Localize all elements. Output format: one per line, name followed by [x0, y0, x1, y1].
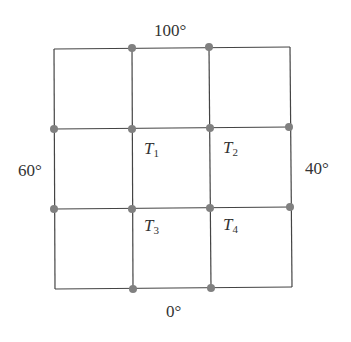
node-left-2 — [50, 205, 58, 213]
grid-line-top — [54, 47, 290, 49]
node-right-1 — [285, 123, 293, 131]
grid-line-h2 — [55, 207, 291, 209]
grid-line-v2 — [209, 47, 211, 288]
grid-line-v1 — [132, 48, 133, 289]
node-label-t4: T4 — [223, 216, 238, 235]
node-t2 — [206, 124, 214, 132]
grid-line-bottom — [55, 287, 292, 289]
grid-line-left — [54, 49, 55, 289]
node-right-2 — [286, 203, 294, 211]
grid-line-h1 — [54, 127, 290, 129]
node-top-1 — [128, 44, 136, 52]
grid-line-right — [290, 47, 292, 287]
node-t3 — [128, 205, 136, 213]
node-bottom-1 — [129, 285, 137, 293]
grid-diagram — [0, 0, 351, 342]
node-label-t1: T1 — [144, 140, 159, 159]
node-t4 — [206, 204, 214, 212]
boundary-label-left: 60° — [18, 162, 42, 179]
node-t1 — [128, 125, 136, 133]
node-bottom-2 — [207, 284, 215, 292]
node-label-t2: T2 — [223, 139, 238, 158]
boundary-label-right: 40° — [305, 160, 329, 177]
boundary-label-bottom: 0° — [166, 303, 181, 320]
boundary-label-top: 100° — [154, 22, 186, 39]
node-label-t3: T3 — [144, 217, 159, 236]
node-top-2 — [205, 43, 213, 51]
node-left-1 — [50, 125, 58, 133]
